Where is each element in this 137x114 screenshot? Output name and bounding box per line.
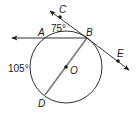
label-a: A xyxy=(37,27,45,38)
label-c: C xyxy=(59,4,67,15)
point-e xyxy=(116,59,120,63)
point-o xyxy=(64,65,68,69)
label-arc-ad: 105° xyxy=(8,63,29,74)
point-c xyxy=(58,15,62,19)
label-b: B xyxy=(86,27,93,38)
circle-diagram: C 75° A B E 105° O D xyxy=(0,0,137,114)
label-e: E xyxy=(117,48,124,59)
label-o: O xyxy=(70,65,78,76)
label-d: D xyxy=(38,98,45,109)
label-arc-ab: 75° xyxy=(51,23,66,34)
